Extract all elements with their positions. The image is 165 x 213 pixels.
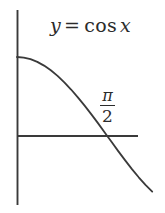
equation-function-name: cos [83, 14, 117, 36]
equation-argument-variable: x [117, 14, 131, 36]
equation-label: y=cosx [50, 14, 131, 36]
fraction-numerator: π [100, 88, 115, 105]
fraction-denominator: 2 [100, 107, 115, 125]
equation-y-variable: y [50, 14, 61, 36]
fraction: π 2 [100, 88, 115, 125]
equation-equals-sign: = [61, 14, 83, 36]
cosine-graph-figure: y=cosx π 2 [0, 0, 165, 213]
pi-over-two-label: π 2 [100, 88, 115, 125]
